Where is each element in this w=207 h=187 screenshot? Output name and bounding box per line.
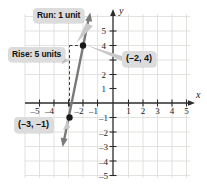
- xtick-label-5: 5: [184, 106, 189, 116]
- ytick-label-2: 2: [102, 70, 107, 80]
- xtick-label-neg1: –1: [88, 106, 98, 116]
- xtick-label-2: 2: [141, 106, 146, 116]
- rise-callout: Rise: 5 units: [8, 47, 65, 62]
- ytick-label-neg3: –3: [98, 142, 109, 152]
- xtick-label-1: 1: [126, 106, 131, 116]
- point-neg2-4: [80, 42, 86, 48]
- line-arrowhead-bottom: [61, 138, 68, 147]
- xtick-label-neg2: –2: [74, 106, 84, 116]
- ytick-label-5: 5: [102, 26, 107, 36]
- ytick-label-neg1: –1: [98, 113, 108, 123]
- ytick-label-neg4: –4: [98, 157, 109, 167]
- xtick-label-neg4: –4: [44, 106, 55, 116]
- xtick-label-neg5: –5: [30, 106, 41, 116]
- xtick-label-3: 3: [155, 106, 160, 116]
- grid-lines: [25, 14, 190, 178]
- x-axis-arrowhead: [188, 100, 195, 106]
- point-neg3-neg1: [66, 114, 72, 120]
- ytick-label-neg5: –5: [98, 171, 109, 181]
- ytick-label-neg2: –2: [98, 128, 108, 138]
- graph-canvas: –5 –4 –2 –1 1 2 3 4 5 5 4 2 1 –1 –2 –3 –…: [0, 0, 207, 187]
- y-axis-arrowhead: [110, 9, 116, 16]
- ytick-label-4: 4: [102, 41, 107, 51]
- ytick-label-1: 1: [102, 84, 107, 94]
- line-arrowhead-top: [85, 13, 92, 22]
- upper-point-label: (–2, 4): [122, 51, 156, 67]
- axes: [25, 13, 191, 176]
- xtick-label-4: 4: [170, 106, 175, 116]
- lower-point-label: (–3, –1): [14, 117, 53, 133]
- y-axis-label: y: [118, 5, 124, 16]
- run-callout: Run: 1 unit: [33, 8, 84, 23]
- x-axis-label: x: [195, 89, 201, 100]
- coordinate-plane-figure: –5 –4 –2 –1 1 2 3 4 5 5 4 2 1 –1 –2 –3 –…: [0, 0, 207, 187]
